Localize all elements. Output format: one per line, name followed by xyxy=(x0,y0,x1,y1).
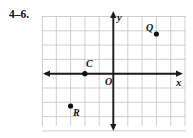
point-q-label: Q xyxy=(146,22,153,33)
exercise-figure: 4–6. xyxy=(0,0,193,138)
coordinate-plane-svg: y x O C Q R xyxy=(42,10,186,132)
y-axis-label: y xyxy=(115,12,122,23)
y-axis-down-arrowhead xyxy=(110,124,116,131)
coordinate-plane-plot: y x O C Q R xyxy=(42,10,186,132)
point-q-dot xyxy=(154,31,159,36)
y-axis-up-arrowhead xyxy=(110,11,116,18)
point-r: R xyxy=(68,103,80,118)
x-axis-left-arrowhead xyxy=(43,71,50,77)
x-axis-right-arrowhead xyxy=(176,71,183,77)
point-c-dot xyxy=(82,71,87,76)
point-c-label: C xyxy=(86,58,93,69)
x-axis-label: x xyxy=(175,77,181,88)
y-axis xyxy=(110,11,116,131)
point-q: Q xyxy=(146,22,159,37)
point-r-label: R xyxy=(72,107,80,118)
origin-label: O xyxy=(105,76,112,87)
exercise-number-label: 4–6. xyxy=(9,8,29,20)
